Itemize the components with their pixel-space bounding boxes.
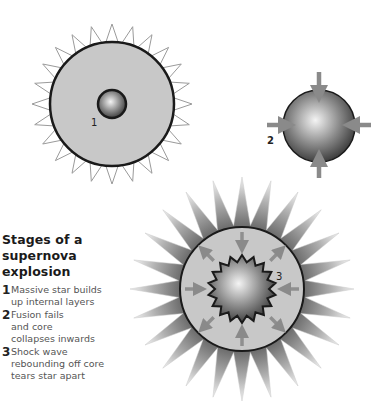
legend-item-number: 2	[2, 309, 11, 345]
stage-1-label: 1	[91, 117, 97, 128]
legend-title: Stages of a supernova explosion	[2, 232, 142, 280]
legend-item-text: Fusion fails and core collapses inwards	[11, 309, 95, 345]
legend-item-1: 1 Massive star builds up internal layers	[2, 284, 142, 308]
star-1-core	[98, 90, 126, 118]
stage-3-label: 3	[276, 271, 282, 282]
legend-item-number: 1	[2, 284, 11, 308]
legend-item-text: Shock wave rebounding off core tears sta…	[11, 346, 104, 382]
legend: Stages of a supernova explosion 1 Massiv…	[2, 232, 142, 383]
stage-2-star: 2	[267, 72, 371, 178]
stage-2-label: 2	[267, 135, 274, 146]
legend-item-3: 3 Shock wave rebounding off core tears s…	[2, 346, 142, 382]
star-2-core	[283, 90, 355, 162]
legend-item-text: Massive star builds up internal layers	[11, 284, 102, 308]
stage-3-star: 3	[130, 177, 354, 401]
legend-item-2: 2 Fusion fails and core collapses inward…	[2, 309, 142, 345]
legend-item-number: 3	[2, 346, 11, 382]
stage-1-star: 1	[32, 24, 192, 184]
